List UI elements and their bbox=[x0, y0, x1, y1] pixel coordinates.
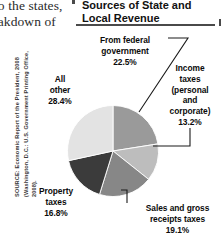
slice-label-property-taxes: Property taxes 16.8% bbox=[22, 186, 90, 218]
pie-chart-svg bbox=[67, 105, 159, 197]
slice-value-property: 16.8% bbox=[22, 208, 90, 219]
slice-label-federal-line1: From federal bbox=[83, 35, 167, 46]
slice-value-sales: 19.1% bbox=[134, 225, 221, 236]
slice-label-federal-government: From federal government 22.5% bbox=[83, 35, 167, 67]
slice-label-property-line1: Property bbox=[22, 186, 90, 197]
slice-label-income-line5: corporate) bbox=[160, 106, 220, 117]
figure-title-block: Sources of State and Local Revenue bbox=[71, 0, 221, 31]
slice-label-income-line2: taxes bbox=[160, 74, 220, 85]
slice-value-all-other: 28.4% bbox=[31, 96, 89, 107]
slice-label-federal-line2: government bbox=[83, 46, 167, 57]
figure-container: to the states, reakdown of Sources of St… bbox=[0, 0, 221, 238]
slice-label-sales-taxes: Sales and gross receipts taxes 19.1% bbox=[134, 203, 221, 235]
title-rule-left-tick bbox=[72, 0, 75, 4]
figure-title: Sources of State and Local Revenue bbox=[82, 0, 220, 26]
page-bleed-text-line-1: to the states, bbox=[0, 0, 63, 14]
slice-label-all-other: All other 28.4% bbox=[31, 74, 89, 106]
slice-label-income-taxes: Income taxes (personal and corporate) 13… bbox=[160, 63, 220, 128]
source-credit: SOURCE: Economic Report of the President… bbox=[13, 37, 39, 197]
slice-value-federal: 22.5% bbox=[83, 57, 167, 68]
slice-label-income-line1: Income bbox=[160, 63, 220, 74]
title-rule-bottom bbox=[76, 24, 215, 26]
slice-label-property-line2: taxes bbox=[22, 197, 90, 208]
slice-value-income: 13.2% bbox=[160, 117, 220, 128]
slice-label-all-other-line1: All bbox=[31, 74, 89, 85]
pie-slice bbox=[68, 106, 114, 161]
slice-label-income-line3: (personal bbox=[160, 85, 220, 96]
pie-chart bbox=[67, 105, 159, 197]
slice-label-sales-line1: Sales and gross bbox=[134, 203, 221, 214]
pie-slice bbox=[113, 106, 158, 152]
title-rule-right-tick bbox=[219, 19, 221, 26]
slice-label-income-line4: and bbox=[160, 95, 220, 106]
page-bleed-text-line-2: reakdown of bbox=[0, 14, 56, 30]
slice-label-sales-line2: receipts taxes bbox=[134, 214, 221, 225]
slice-label-all-other-line2: other bbox=[31, 85, 89, 96]
